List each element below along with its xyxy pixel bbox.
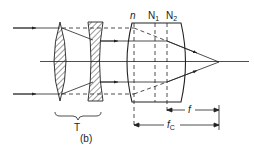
incoming-rays bbox=[13, 28, 60, 94]
converging-rays bbox=[62, 28, 93, 94]
equivalent-lens-block bbox=[127, 23, 186, 102]
dashed-ray-refraction bbox=[134, 28, 167, 94]
label-N2: N2 bbox=[166, 10, 177, 22]
label-n: n bbox=[130, 10, 136, 21]
figure-caption: (b) bbox=[80, 133, 92, 144]
convex-lens bbox=[54, 22, 66, 101]
telephoto-brace bbox=[55, 112, 101, 120]
label-N1: N1 bbox=[148, 10, 159, 22]
optical-diagram: n N1 N2 T f fC (b) bbox=[0, 0, 254, 151]
label-T: T bbox=[74, 122, 80, 133]
